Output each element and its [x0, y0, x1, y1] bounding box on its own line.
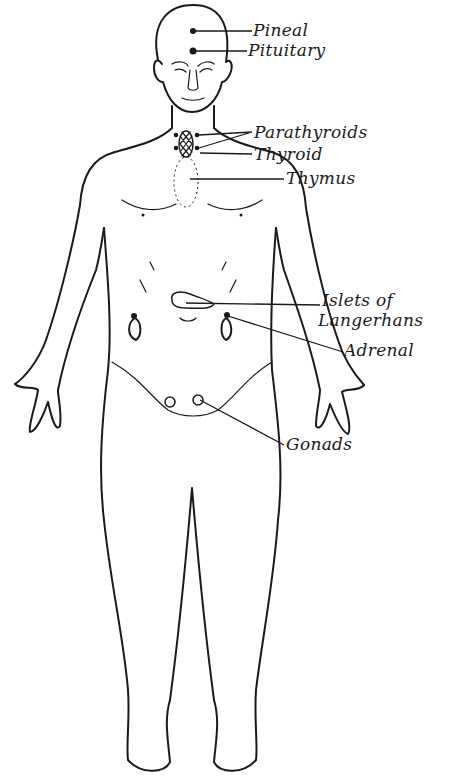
label-langerhans: Langerhans [318, 312, 423, 329]
label-pineal: Pineal [253, 22, 308, 39]
label-thymus: Thymus [286, 170, 356, 187]
label-islets: Islets of [322, 292, 393, 309]
body-outline-drawing [0, 0, 460, 779]
label-thyroid: Thyroid [254, 146, 323, 163]
pituitary-gland [190, 48, 197, 55]
label-pituitary: Pituitary [248, 42, 326, 59]
label-adrenal: Adrenal [344, 342, 414, 359]
endocrine-diagram: Pineal Pituitary Parathyroids Thyroid Th… [0, 0, 460, 779]
label-parathyroids: Parathyroids [254, 124, 367, 141]
label-gonads: Gonads [286, 436, 352, 453]
